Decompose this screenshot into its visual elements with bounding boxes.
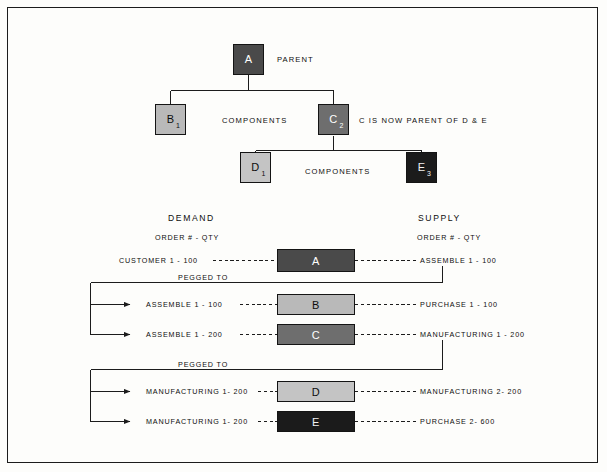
pegging-header-supply: SUPPLY <box>418 214 461 223</box>
diagram-page: A B 1 C 2 D 1 E 3 PARENT COMPONENTS C IS… <box>0 0 607 472</box>
pegging-bar-a-label: A <box>312 255 320 267</box>
bom-node-b-label: B 1 <box>167 114 175 125</box>
pegging-bar-d-label: D <box>312 386 320 398</box>
bom-node-c-subscript: 2 <box>339 122 343 129</box>
pegging-row-supply-a: ASSEMBLE 1 - 100 <box>420 257 497 264</box>
pegging-row-demand-c: ASSEMBLE 1 - 200 <box>146 331 223 338</box>
pegging-bar-c[interactable]: C <box>277 324 355 345</box>
bom-node-c-label: C 2 <box>329 114 337 125</box>
bom-node-a[interactable]: A <box>233 44 264 75</box>
pegging-row-supply-e: PURCHASE 2- 600 <box>420 418 495 425</box>
pegging-bar-d[interactable]: D <box>277 381 355 402</box>
annotation-c-note: C IS NOW PARENT OF D & E <box>359 117 488 125</box>
bom-node-b-subscript: 1 <box>176 122 180 129</box>
annotation-components-1: COMPONENTS <box>222 117 287 125</box>
pegging-header-demand: DEMAND <box>168 214 215 223</box>
pegging-bar-e-label: E <box>312 416 320 428</box>
pegging-bar-c-label: C <box>312 329 320 341</box>
pegging-bar-e[interactable]: E <box>277 411 355 432</box>
pegging-row-supply-d: MANUFACTURING 2- 200 <box>420 388 522 395</box>
pegging-row-demand-a: CUSTOMER 1 - 100 <box>119 257 198 264</box>
annotation-components-2: COMPONENTS <box>305 168 370 176</box>
bom-node-e-subscript: 3 <box>427 170 431 177</box>
pegged-to-label-1: PEGGED TO <box>178 274 228 281</box>
pegging-bar-b[interactable]: B <box>277 294 355 315</box>
bom-node-a-label: A <box>245 54 253 65</box>
pegging-row-demand-e: MANUFACTURING 1- 200 <box>146 418 248 425</box>
pegging-row-demand-b: ASSEMBLE 1 - 100 <box>146 301 223 308</box>
annotation-parent: PARENT <box>277 56 314 64</box>
bom-node-d-subscript: 1 <box>261 170 265 177</box>
pegged-to-label-2: PEGGED TO <box>178 361 228 368</box>
pegging-bar-a[interactable]: A <box>277 249 355 272</box>
bom-node-e[interactable]: E 3 <box>406 152 437 183</box>
pegging-row-demand-d: MANUFACTURING 1- 200 <box>146 388 248 395</box>
pegging-row-supply-b: PURCHASE 1 - 100 <box>420 301 498 308</box>
bom-node-b[interactable]: B 1 <box>155 104 186 135</box>
pegging-bar-b-label: B <box>312 299 320 311</box>
bom-node-d[interactable]: D 1 <box>240 152 271 183</box>
bom-node-d-label: D 1 <box>251 162 259 173</box>
pegging-row-supply-c: MANUFACTURING 1 - 200 <box>420 331 525 338</box>
pegging-subheader-demand: ORDER # - QTY <box>155 234 219 241</box>
bom-node-c[interactable]: C 2 <box>318 104 349 135</box>
pegging-subheader-supply: ORDER # - QTY <box>417 234 481 241</box>
bom-node-e-label: E 3 <box>418 162 426 173</box>
